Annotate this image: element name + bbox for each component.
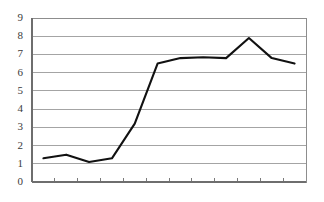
y-axis-tick-label: 5: [18, 84, 24, 96]
y-axis-tick-label: 6: [18, 66, 24, 78]
gridlines: [32, 18, 306, 164]
y-axis-tick-labels: 0123456789: [18, 11, 24, 187]
y-axis-tick-label: 1: [18, 157, 24, 169]
y-axis-tick-label: 8: [18, 29, 24, 41]
y-axis-tick-label: 0: [18, 175, 24, 187]
y-axis-tick-label: 3: [18, 120, 24, 132]
x-axis-tickmarks: [55, 178, 283, 182]
y-axis-tick-label: 9: [18, 11, 24, 23]
y-axis-tick-label: 4: [18, 102, 24, 114]
line-chart: 0123456789: [0, 0, 324, 202]
y-axis-tick-label: 2: [18, 139, 24, 151]
data-series-line: [43, 38, 294, 162]
y-axis-tick-label: 7: [18, 47, 24, 59]
chart-container: 0123456789: [0, 0, 324, 202]
